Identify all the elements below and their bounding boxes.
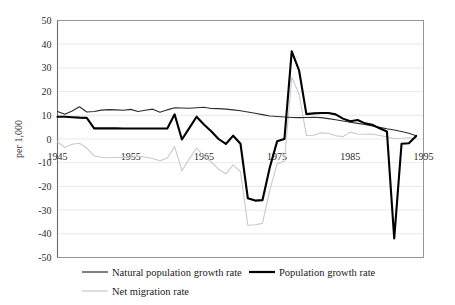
- y-tick-label-20: 20: [42, 86, 52, 97]
- legend-label-net-migration-rate: Net migration rate: [112, 286, 189, 297]
- y-tick-label-30: 30: [42, 62, 52, 73]
- y-tick-label-50: 50: [42, 15, 52, 26]
- y-axis-title: per 1,000: [13, 120, 24, 158]
- y-tick-label-10: 10: [42, 110, 52, 121]
- x-tick-label-1985: 1985: [340, 151, 360, 162]
- legend-label-natural-population-growth-rate: Natural population growth rate: [112, 267, 242, 278]
- legend: Natural population growth rate Populatio…: [82, 267, 376, 297]
- y-tick-labels: 50403020100-10-20-30-40-50: [38, 15, 51, 263]
- gridlines: [58, 44, 424, 234]
- y-tick-label-0: 0: [47, 134, 52, 145]
- chart-container: 50403020100-10-20-30-40-50 1945195519651…: [0, 0, 455, 305]
- series-line-net-migration-rate: [58, 77, 417, 225]
- x-tick-label-1995: 1995: [414, 151, 434, 162]
- y-tick-label-40: 40: [42, 39, 52, 50]
- x-tick-label-1945: 1945: [48, 151, 68, 162]
- y-tick-label--20: -20: [38, 181, 51, 192]
- line-chart: 50403020100-10-20-30-40-50 1945195519651…: [0, 0, 455, 305]
- y-tick-label--50: -50: [38, 252, 51, 263]
- x-tick-labels: 194519551965197519851995: [48, 151, 434, 162]
- y-tick-label--40: -40: [38, 228, 51, 239]
- y-tick-label--30: -30: [38, 205, 51, 216]
- legend-label-population-growth-rate: Population growth rate: [279, 267, 376, 278]
